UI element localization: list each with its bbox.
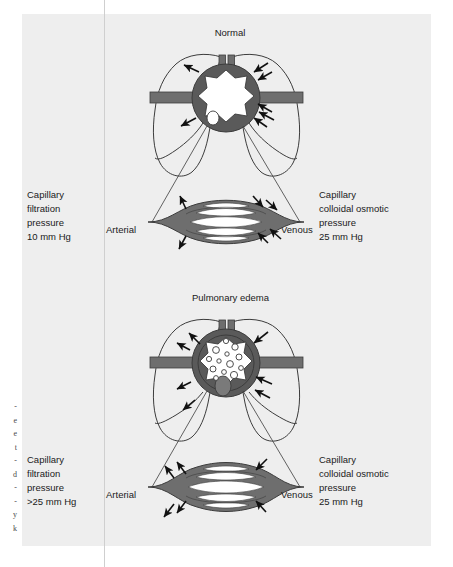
colloidal-osmotic-label-line3: pressure <box>319 481 431 495</box>
colloidal-osmotic-value-edema: 25 mm Hg <box>319 495 431 509</box>
capillary-filtration-label-line2: filtration <box>27 467 112 481</box>
colloidal-osmotic-label-line2: colloidal osmotic <box>319 467 431 481</box>
capillary-filtration-value-edema: >25 mm Hg <box>27 495 112 509</box>
arterial-label-edema: Arterial <box>106 489 136 500</box>
figure-page: - e e t - d - - y k Normal Capillary fil… <box>0 0 453 567</box>
heart-cross-section-edema <box>192 329 260 397</box>
capillary-filtration-label-line3: pressure <box>27 481 112 495</box>
capillary-bed-edema <box>148 463 304 512</box>
right-text-edema: Capillary colloidal osmotic pressure 25 … <box>319 453 431 509</box>
left-text-edema: Capillary filtration pressure >25 mm Hg <box>27 453 112 509</box>
panel-title-edema: Pulmonary edema <box>158 292 303 303</box>
capillary-bed-normal <box>148 200 304 244</box>
heart-cross-section-normal <box>192 64 260 132</box>
colloidal-osmotic-label-line1: Capillary <box>319 453 431 467</box>
venous-label-edema: Venous <box>281 489 313 500</box>
capillary-filtration-label-line1: Capillary <box>27 453 112 467</box>
